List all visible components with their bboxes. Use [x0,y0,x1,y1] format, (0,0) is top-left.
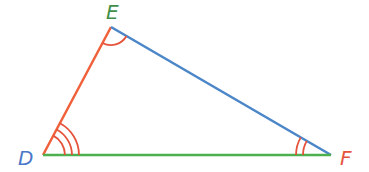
vertex-label-f: F [340,146,352,170]
vertex-label-d: D [18,146,33,170]
side-ef [111,27,331,155]
triangle-diagram: E D F [0,0,369,172]
vertex-label-e: E [106,0,119,24]
